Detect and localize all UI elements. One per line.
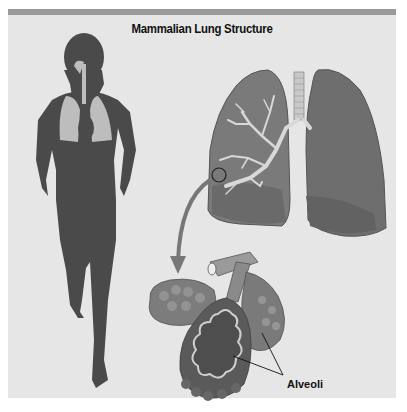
alveoli-enlargement	[149, 252, 284, 401]
lungs	[208, 69, 386, 236]
alveoli-label: Alveoli	[287, 378, 323, 390]
lung-illustration	[0, 0, 407, 412]
curved-arrow	[170, 180, 210, 274]
silhouette-heart	[78, 116, 94, 140]
